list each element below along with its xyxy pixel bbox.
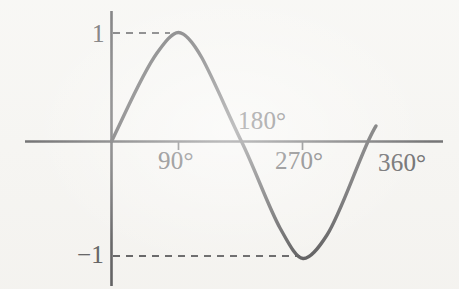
x-axis-label-270: 270°: [275, 148, 323, 173]
sine-curve: [112, 33, 377, 259]
y-axis-label-negative-one: −1: [77, 242, 104, 267]
x-axis-label-180: 180°: [238, 108, 286, 133]
x-axis-label-90: 90°: [158, 148, 194, 173]
sine-plot-canvas: [0, 0, 459, 289]
y-axis-label-one: 1: [92, 21, 105, 46]
sine-wave-figure: ) 1 −1 90° 180° 270° 360°: [0, 0, 459, 289]
x-axis-label-360: 360°: [378, 150, 426, 175]
